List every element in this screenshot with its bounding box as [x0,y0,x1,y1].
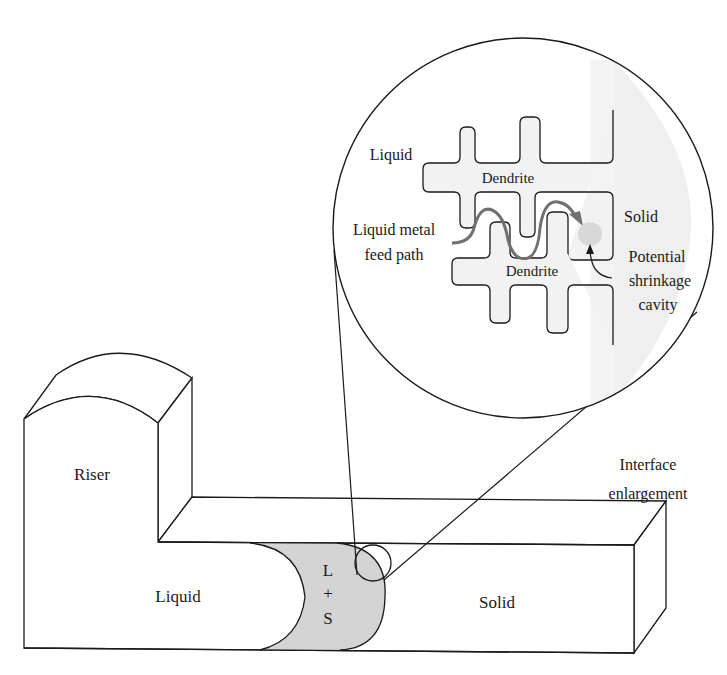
shrinkage-cavity [578,222,602,246]
casting-liquid-label: Liquid [155,587,201,606]
cavity-label-line2: shrinkage [629,272,691,290]
dendrite-upper-label: Dendrite [482,170,535,186]
feed-path-label-line1: Liquid metal [353,221,436,239]
enlargement-solid-label: Solid [624,208,658,225]
enlargement-liquid-label: Liquid [370,146,413,164]
figure-canvas: Riser Liquid L + S Solid Interface enlar… [0,0,727,675]
casting-solid-label: Solid [479,593,515,612]
feed-path-label-line2: feed path [364,246,423,264]
riser-label: Riser [74,465,110,484]
solid-region-shade [613,60,691,400]
callout-label-line1: Interface [620,456,677,473]
mushy-zone-label-plus: + [323,584,333,603]
mushy-zone-label-l: L [323,561,333,580]
cavity-label-line3: cavity [638,296,677,314]
dendrite-lower-label: Dendrite [506,263,559,279]
bar-top-surface [158,497,666,545]
cavity-label-line1: Potential [629,248,686,265]
diagram-svg: Riser Liquid L + S Solid Interface enlar… [0,0,727,675]
mushy-zone-label-s: S [323,609,332,628]
callout-label-line2: enlargement [609,485,688,503]
